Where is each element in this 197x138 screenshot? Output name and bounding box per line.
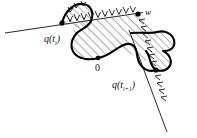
figure-root: q(ti) w 0 q(ti+1) (0, 0, 197, 138)
label-q-ti1-main: q(t (112, 79, 123, 91)
label-q-ti-plus-1: q(ti+1) (112, 79, 136, 92)
point-q-ti (59, 20, 64, 25)
mathematical-diagram: q(ti) w 0 q(ti+1) (0, 0, 197, 138)
label-q-ti-close: ) (56, 33, 61, 45)
point-q-ti-plus-1 (153, 67, 158, 72)
label-q-ti: q(ti) (44, 33, 61, 46)
label-q-ti1-subscript: i+1 (123, 86, 132, 92)
point-origin (96, 56, 101, 61)
label-w: w (145, 7, 151, 17)
point-w (135, 11, 140, 16)
label-q-ti1-close: ) (131, 79, 136, 91)
lower-right-hatch (153, 70, 170, 105)
label-origin: 0 (95, 62, 100, 73)
label-q-ti-main: q(t (44, 33, 55, 45)
